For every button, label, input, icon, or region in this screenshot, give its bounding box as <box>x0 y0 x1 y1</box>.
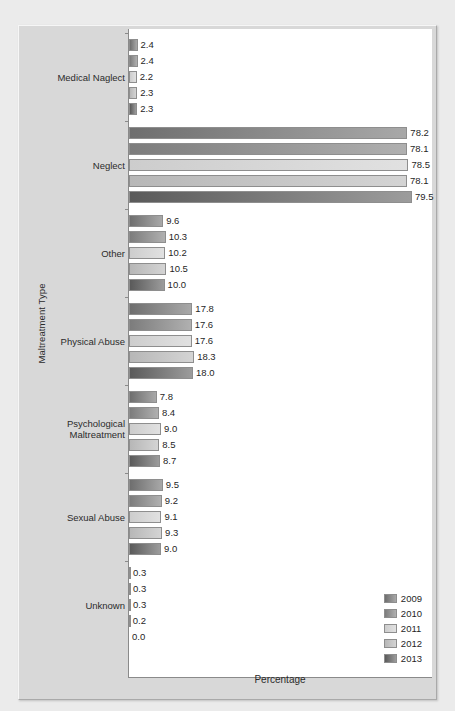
bar-2010-2[interactable] <box>129 231 166 243</box>
bar-value-label: 9.6 <box>166 214 179 227</box>
bar-2012-1[interactable] <box>129 175 407 187</box>
bar-value-label: 9.5 <box>166 478 179 491</box>
bar-2013-4[interactable] <box>129 455 160 467</box>
legend-swatch-icon <box>384 609 397 618</box>
bar-2012-0[interactable] <box>129 87 137 99</box>
legend-label: 2012 <box>401 638 422 649</box>
bar-value-label: 17.6 <box>195 318 214 331</box>
legend: 20092010201120122013 <box>382 590 424 669</box>
legend-item-2012[interactable]: 2012 <box>384 637 422 650</box>
legend-label: 2011 <box>401 623 421 634</box>
bar-group: 9.59.29.19.39.0 <box>129 479 432 555</box>
axis-tick <box>125 473 129 474</box>
bar-value-label: 78.5 <box>411 158 430 171</box>
bar-2010-1[interactable] <box>129 143 407 155</box>
bar-value-label: 18.0 <box>196 366 215 379</box>
bar-value-label: 2.4 <box>141 38 154 51</box>
bar-value-label: 8.4 <box>162 406 175 419</box>
axis-tick <box>125 33 129 34</box>
bar-2011-3[interactable] <box>129 335 192 347</box>
bar-2011-4[interactable] <box>129 423 161 435</box>
bar-2010-4[interactable] <box>129 407 159 419</box>
category-label: Unknown <box>39 600 125 611</box>
bar-2011-0[interactable] <box>129 71 137 83</box>
bar-2009-3[interactable] <box>129 303 192 315</box>
axis-tick <box>125 209 129 210</box>
legend-item-2011[interactable]: 2011 <box>384 622 422 635</box>
legend-label: 2013 <box>401 653 422 664</box>
bar-2011-2[interactable] <box>129 247 165 259</box>
bar-2010-5[interactable] <box>129 495 162 507</box>
bar-group: 7.88.49.08.58.7 <box>129 391 432 467</box>
bar-2010-0[interactable] <box>129 55 138 67</box>
axis-tick <box>125 385 129 386</box>
bar-value-label: 7.8 <box>160 390 173 403</box>
legend-swatch-icon <box>384 624 397 633</box>
x-axis-title: Percentage <box>128 674 432 685</box>
bar-value-label: 0.3 <box>133 566 146 579</box>
bar-value-label: 78.1 <box>410 174 429 187</box>
bar-value-label: 9.3 <box>165 526 178 539</box>
bar-2010-6[interactable] <box>129 583 131 595</box>
bar-value-label: 9.2 <box>165 494 178 507</box>
legend-swatch-icon <box>384 654 397 663</box>
legend-swatch-icon <box>384 639 397 648</box>
legend-item-2013[interactable]: 2013 <box>384 652 422 665</box>
bar-value-label: 0.3 <box>133 598 146 611</box>
bar-group: 2.42.42.22.32.3 <box>129 39 432 115</box>
bar-value-label: 2.3 <box>140 86 153 99</box>
bar-2012-3[interactable] <box>129 351 194 363</box>
axis-tick <box>125 561 129 562</box>
axis-tick <box>125 297 129 298</box>
bar-value-label: 10.2 <box>168 246 187 259</box>
category-label-column: Medical NaglectNeglectOtherPhysical Abus… <box>39 29 125 678</box>
category-label: Medical Naglect <box>39 72 125 83</box>
bar-2012-5[interactable] <box>129 527 162 539</box>
bar-2013-3[interactable] <box>129 367 193 379</box>
legend-item-2010[interactable]: 2010 <box>384 607 422 620</box>
bar-group: 78.278.178.578.179.5 <box>129 127 432 203</box>
bar-value-label: 8.5 <box>162 438 175 451</box>
bar-2009-0[interactable] <box>129 39 138 51</box>
bar-2013-1[interactable] <box>129 191 412 203</box>
category-label: Neglect <box>39 160 125 171</box>
bar-value-label: 79.5 <box>415 190 434 203</box>
axis-tick <box>125 121 129 122</box>
bar-value-label: 10.5 <box>169 262 188 275</box>
bar-2012-4[interactable] <box>129 439 159 451</box>
bar-value-label: 0.0 <box>132 630 145 643</box>
category-label: Sexual Abuse <box>39 512 125 523</box>
category-label: Other <box>39 248 125 259</box>
bar-value-label: 2.4 <box>141 54 154 67</box>
bar-value-label: 78.1 <box>410 142 429 155</box>
bar-2009-2[interactable] <box>129 215 163 227</box>
bar-value-label: 18.3 <box>197 350 216 363</box>
bar-2010-3[interactable] <box>129 319 192 331</box>
bar-value-label: 2.2 <box>140 70 153 83</box>
bar-2011-5[interactable] <box>129 511 161 523</box>
bar-group: 17.817.617.618.318.0 <box>129 303 432 379</box>
chart-panel: Maltreatment Type Medical NaglectNeglect… <box>18 25 437 700</box>
bar-2009-6[interactable] <box>129 567 131 579</box>
bar-group: 9.610.310.210.510.0 <box>129 215 432 291</box>
bar-value-label: 10.0 <box>168 278 187 291</box>
bar-2009-5[interactable] <box>129 479 163 491</box>
bar-2012-2[interactable] <box>129 263 166 275</box>
bar-value-label: 0.3 <box>133 582 146 595</box>
plot-area: 2.42.42.22.32.378.278.178.578.179.59.610… <box>128 29 432 678</box>
bar-value-label: 2.3 <box>140 102 153 115</box>
bar-value-label: 9.1 <box>164 510 177 523</box>
bar-2011-6[interactable] <box>129 599 131 611</box>
legend-swatch-icon <box>384 594 397 603</box>
bar-2009-4[interactable] <box>129 391 157 403</box>
category-label: Physical Abuse <box>39 336 125 347</box>
bar-2013-5[interactable] <box>129 543 161 555</box>
bar-2013-0[interactable] <box>129 103 137 115</box>
legend-item-2009[interactable]: 2009 <box>384 592 422 605</box>
bar-value-label: 17.8 <box>195 302 214 315</box>
category-label: Psychological Maltreatment <box>39 418 125 440</box>
bar-2013-2[interactable] <box>129 279 165 291</box>
bar-2011-1[interactable] <box>129 159 408 171</box>
bar-2009-1[interactable] <box>129 127 407 139</box>
bar-2012-6[interactable] <box>129 615 131 627</box>
